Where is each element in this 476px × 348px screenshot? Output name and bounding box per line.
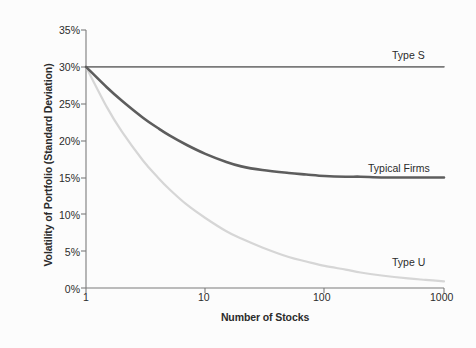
- data-series-group: [86, 67, 444, 282]
- series-label-typical-firms: Typical Firms: [368, 162, 430, 174]
- y-tick-marks: [81, 30, 86, 288]
- series-line-typical-firms: [86, 67, 444, 178]
- series-line-type-u: [86, 67, 444, 282]
- series-label-type-u: Type U: [392, 256, 425, 268]
- x-tick-marks: [86, 288, 444, 293]
- chart-figure: Volatility of Portfolio (Standard Deviat…: [0, 0, 476, 348]
- series-label-type-s: Type S: [392, 49, 425, 61]
